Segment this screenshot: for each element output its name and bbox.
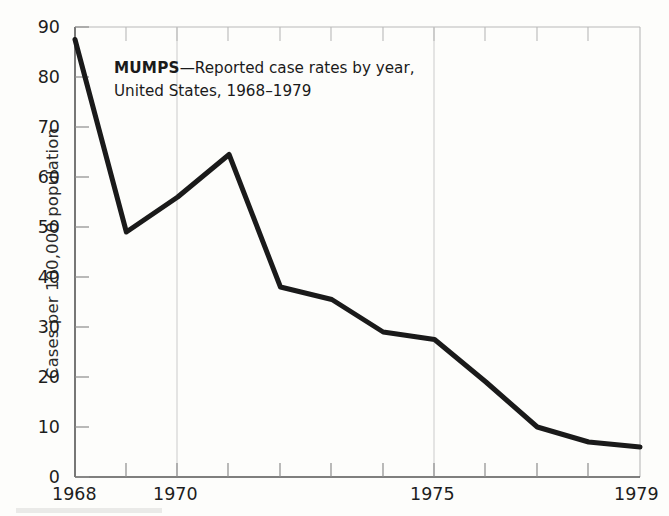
chart-title-dash: — [180, 59, 195, 77]
chart-title-disease: MUMPS [114, 59, 180, 77]
chart-title: MUMPS—Reported case rates by year, Unite… [114, 57, 414, 103]
y-tick-label-10: 10 [14, 417, 60, 437]
x-tick-label-1968: 1968 [52, 484, 97, 504]
y-tick-label-80: 80 [14, 67, 60, 87]
y-tick-label-70: 70 [14, 117, 60, 137]
y-axis-label: Cases per 100,000 population [43, 109, 62, 399]
page-edge-artifact [16, 508, 162, 513]
x-tick-label-1979: 1979 [614, 484, 659, 504]
x-tick-label-1975: 1975 [410, 484, 455, 504]
chart-title-rest: Reported case rates by year, [195, 59, 415, 77]
y-tick-label-60: 60 [14, 167, 60, 187]
y-tick-label-30: 30 [14, 317, 60, 337]
y-tick-label-40: 40 [14, 267, 60, 287]
y-tick-label-50: 50 [14, 217, 60, 237]
chart-title-line2: United States, 1968–1979 [114, 80, 414, 103]
x-tick-label-1970: 1970 [153, 484, 198, 504]
y-tick-label-90: 90 [14, 17, 60, 37]
y-tick-label-20: 20 [14, 367, 60, 387]
chart-figure: Cases per 100,000 population 0 10 20 30 … [0, 0, 669, 516]
